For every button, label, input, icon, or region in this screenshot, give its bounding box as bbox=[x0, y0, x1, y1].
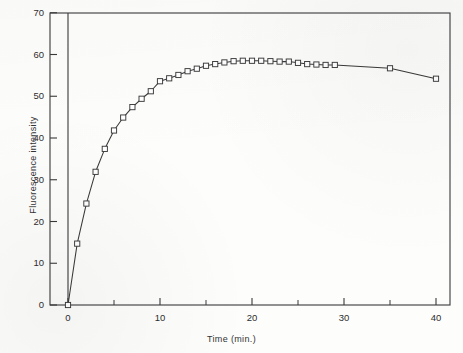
data-series-line bbox=[68, 61, 436, 305]
figure-container: 010203040506070 010203040 Time (min.) Fl… bbox=[0, 0, 463, 353]
data-point-markers bbox=[65, 58, 438, 307]
y-axis-title: Fluorescence intensity bbox=[28, 70, 38, 260]
x-tick-label: 10 bbox=[145, 312, 175, 323]
x-tick-label: 0 bbox=[53, 312, 83, 323]
y-tick-label: 70 bbox=[16, 7, 44, 18]
plot-frame bbox=[50, 13, 450, 305]
y-tick-label: 60 bbox=[16, 49, 44, 60]
fluorescence-kinetics-chart bbox=[0, 0, 463, 353]
y-tick-label: 0 bbox=[16, 299, 44, 310]
x-tick-label: 20 bbox=[237, 312, 267, 323]
x-axis-title: Time (min.) bbox=[0, 334, 463, 344]
axis-ticks bbox=[50, 13, 436, 305]
x-tick-label: 30 bbox=[329, 312, 359, 323]
x-tick-label: 40 bbox=[421, 312, 451, 323]
